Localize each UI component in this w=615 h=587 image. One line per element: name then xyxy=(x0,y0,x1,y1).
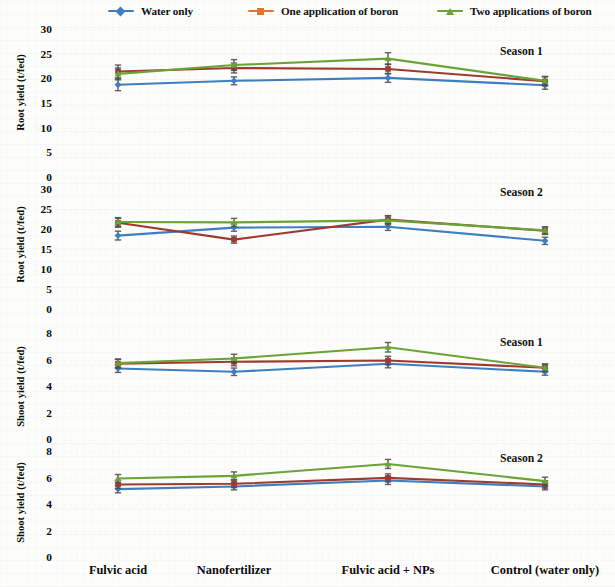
data-point-marker xyxy=(385,66,391,72)
chart-legend: Water onlyOne application of boronTwo ap… xyxy=(0,0,615,22)
series-line-3 xyxy=(118,464,545,481)
legend-swatch-diamond-icon xyxy=(108,5,134,17)
data-point-marker xyxy=(115,81,122,88)
panel-root-yield-season-2: Root yield (t/fed)302520151050Season 2 xyxy=(0,182,615,327)
x-axis-label-3: Fulvic acid + NPs xyxy=(313,563,463,578)
data-point-marker xyxy=(231,237,237,243)
series-line-3 xyxy=(118,220,545,230)
series-line-1 xyxy=(118,78,545,85)
legend-label: Two applications of boron xyxy=(470,5,592,17)
data-point-marker xyxy=(542,237,549,244)
legend-label: Water only xyxy=(141,5,193,17)
data-point-marker xyxy=(231,368,238,375)
legend-item-1[interactable]: Water only xyxy=(108,2,193,20)
series-line-1 xyxy=(118,227,545,241)
series-line-3 xyxy=(118,59,545,81)
data-point-marker xyxy=(385,475,391,481)
panel-shoot-yield-season-1: Shoot yield (t/fed)86420Season 1 xyxy=(0,327,615,445)
panel-root-yield-season-1: Root yield (t/fed)302520151050Season 1 xyxy=(0,22,615,182)
data-point-marker xyxy=(385,74,392,81)
plot-area-shoot-yield-season-1 xyxy=(0,327,615,445)
x-axis-label-4: Control (water only) xyxy=(470,563,615,578)
data-point-marker xyxy=(115,232,122,239)
data-point-marker xyxy=(231,77,238,84)
legend-swatch-square-icon xyxy=(248,5,274,17)
plot-area-root-yield-season-1 xyxy=(0,22,615,182)
figure-root: Water onlyOne application of boronTwo ap… xyxy=(0,0,615,587)
data-point-marker xyxy=(231,481,237,487)
legend-swatch-triangle-icon xyxy=(437,5,463,17)
legend-label: One application of boron xyxy=(281,5,398,17)
x-axis-label-2: Nanofertilizer xyxy=(159,563,309,578)
legend-item-2[interactable]: One application of boron xyxy=(248,2,398,20)
data-point-marker xyxy=(385,358,391,364)
legend-item-3[interactable]: Two applications of boron xyxy=(437,2,592,20)
plot-area-root-yield-season-2 xyxy=(0,182,615,327)
panel-shoot-yield-season-2: Shoot yield (t/fed)86420Season 2 xyxy=(0,445,615,563)
x-axis-category-labels: Fulvic acidNanofertilizerFulvic acid + N… xyxy=(0,563,615,587)
plot-area-shoot-yield-season-2 xyxy=(0,445,615,563)
